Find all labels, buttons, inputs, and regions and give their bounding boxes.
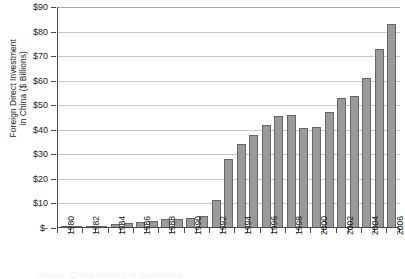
bar xyxy=(299,128,308,227)
bar-slot xyxy=(160,7,173,227)
y-axis-tick-label: $20 xyxy=(33,174,48,183)
y-axis-tick-label: $30 xyxy=(33,150,48,159)
bar xyxy=(287,115,296,227)
bar xyxy=(375,49,384,227)
y-axis-tick-mark xyxy=(51,179,56,180)
x-axis-tick-mark xyxy=(108,228,109,233)
bar-series xyxy=(58,7,399,227)
plot-area xyxy=(57,7,399,228)
x-axis-tick-label: 1998 xyxy=(295,216,304,235)
bar xyxy=(325,112,334,227)
y-axis-tick-label: $- xyxy=(40,224,48,233)
x-axis-tick-mark xyxy=(234,228,235,233)
y-axis-tick-labels: $90$80$70$60$50$40$30$20$10$- xyxy=(0,0,57,236)
bar xyxy=(237,144,246,227)
bar-slot xyxy=(109,7,122,227)
bar-slot xyxy=(97,7,110,227)
bar-slot xyxy=(185,7,198,227)
bar-slot xyxy=(235,7,248,227)
caption-text: Source: China Ministry of Commerce xyxy=(36,272,183,279)
x-axis-tick-mark xyxy=(260,228,261,233)
bar xyxy=(262,125,271,227)
bar-slot xyxy=(222,7,235,227)
x-axis-tick-label: 1996 xyxy=(270,216,279,235)
bar-slot xyxy=(172,7,185,227)
y-axis-tick-mark xyxy=(51,203,56,204)
bar-slot xyxy=(84,7,97,227)
bar-slot xyxy=(298,7,311,227)
bar-slot xyxy=(59,7,72,227)
y-axis-tick-label: $90 xyxy=(33,3,48,12)
y-axis-tick-mark xyxy=(51,56,56,57)
bar-slot xyxy=(260,7,273,227)
y-axis-tick-label: $80 xyxy=(33,27,48,36)
bar-slot xyxy=(335,7,348,227)
y-axis-tick-label: $70 xyxy=(33,52,48,61)
x-axis-tick-label: 1992 xyxy=(219,216,228,235)
bar-slot xyxy=(310,7,323,227)
x-axis-tick-label: 1988 xyxy=(168,216,177,235)
caption-strip: Source: China Ministry of Commerce xyxy=(0,272,401,279)
bar-slot xyxy=(247,7,260,227)
bar-slot xyxy=(72,7,85,227)
bar-slot xyxy=(134,7,147,227)
x-axis-tick-label: 1984 xyxy=(118,216,127,235)
y-axis-tick-label: $40 xyxy=(33,125,48,134)
y-axis-tick-mark xyxy=(51,7,56,8)
x-axis-tick-label: 1982 xyxy=(92,216,101,235)
bar-slot xyxy=(323,7,336,227)
y-axis-tick-label: $60 xyxy=(33,76,48,85)
x-axis-tick-mark xyxy=(361,228,362,233)
bar-slot xyxy=(361,7,374,227)
bar-slot xyxy=(386,7,399,227)
bar-slot xyxy=(197,7,210,227)
x-axis-tick-mark xyxy=(184,228,185,233)
x-axis-tick-mark xyxy=(57,228,58,233)
x-axis-tick-mark xyxy=(82,228,83,233)
x-axis-tick-mark xyxy=(158,228,159,233)
x-axis-tick-label: 2002 xyxy=(346,216,355,235)
bar-slot xyxy=(348,7,361,227)
x-axis-tick-mark xyxy=(310,228,311,233)
y-axis-tick-mark xyxy=(51,32,56,33)
bar-slot xyxy=(210,7,223,227)
y-axis-tick-label: $10 xyxy=(33,199,48,208)
x-axis-tick-mark xyxy=(133,228,134,233)
x-axis-tick-mark xyxy=(285,228,286,233)
y-axis-tick-mark xyxy=(51,105,56,106)
x-axis-tick-mark xyxy=(336,228,337,233)
bar xyxy=(274,116,283,227)
bar xyxy=(350,96,359,227)
bar xyxy=(249,135,258,227)
x-axis-tick-mark xyxy=(209,228,210,233)
x-axis-tick-label: 1990 xyxy=(194,216,203,235)
y-axis-tick-mark xyxy=(51,130,56,131)
y-axis-tick-mark xyxy=(51,228,56,229)
x-axis-tick-label: 1994 xyxy=(244,216,253,235)
bar xyxy=(362,78,371,227)
x-axis-tick-label: 2004 xyxy=(371,216,380,235)
x-axis-tick-label: 1980 xyxy=(67,216,76,235)
x-axis-tick-mark xyxy=(386,228,387,233)
bar-slot xyxy=(147,7,160,227)
x-axis-tick-label: 1986 xyxy=(143,216,152,235)
bar xyxy=(387,24,396,227)
y-axis-tick-label: $50 xyxy=(33,101,48,110)
y-axis-tick-mark xyxy=(51,81,56,82)
bar-slot xyxy=(373,7,386,227)
bar-slot xyxy=(273,7,286,227)
bar-slot xyxy=(285,7,298,227)
y-axis-tick-mark xyxy=(51,154,56,155)
bar xyxy=(312,127,321,227)
x-axis-tick-label: 2000 xyxy=(320,216,329,235)
x-axis-tick-label: 2006 xyxy=(396,216,405,235)
bar-slot xyxy=(122,7,135,227)
bar xyxy=(337,98,346,227)
